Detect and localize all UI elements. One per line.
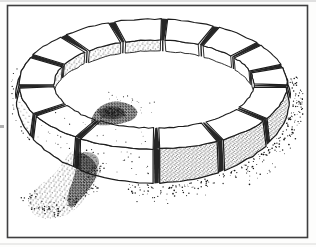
stipple-dot — [54, 202, 55, 203]
stipple-dot — [284, 153, 285, 154]
stipple-dot — [94, 166, 95, 167]
stipple-dot — [201, 186, 202, 187]
stipple-dot — [187, 185, 188, 186]
stipple-dot — [141, 143, 142, 144]
stipple-dot — [167, 203, 168, 204]
stipple-dot — [86, 161, 87, 162]
stipple-dot — [253, 168, 255, 170]
stipple-dot — [298, 95, 299, 96]
stipple-dot — [144, 191, 145, 192]
stipple-dot — [183, 192, 185, 194]
stipple-dot — [107, 110, 108, 111]
stipple-dot — [57, 215, 58, 216]
stipple-dot — [230, 175, 231, 176]
stipple-dot — [247, 171, 248, 172]
stipple-dot — [119, 108, 120, 109]
stipple-dot — [105, 110, 106, 111]
stipple-dot — [139, 157, 140, 158]
stipple-dot — [267, 147, 268, 148]
stipple-dot — [291, 79, 292, 80]
stipple-dot — [121, 110, 122, 111]
stipple-dot — [291, 112, 292, 113]
stipple-dot — [300, 106, 301, 107]
stipple-dot — [293, 101, 294, 102]
stipple-dot — [117, 172, 118, 173]
stipple-dot — [63, 207, 64, 208]
stipple-dot — [297, 121, 298, 122]
stipple-dot — [294, 129, 295, 130]
stipple-dot — [295, 106, 297, 108]
stipple-dot — [257, 178, 258, 179]
stipple-dot — [207, 186, 208, 187]
stipple-dot — [186, 195, 187, 196]
stipple-dot — [302, 93, 303, 94]
block-joint-inner-line — [250, 72, 251, 85]
stipple-dot — [46, 141, 47, 142]
stipple-dot — [124, 159, 125, 160]
stipple-dot — [88, 189, 89, 190]
stipple-dot — [145, 141, 146, 142]
stipple-dot — [259, 156, 260, 157]
stipple-dot — [24, 197, 25, 198]
stipple-dot — [77, 156, 78, 157]
stipple-dot — [107, 112, 108, 113]
stipple-dot — [103, 153, 104, 154]
stipple-dot — [197, 193, 198, 194]
stipple-dot — [224, 175, 225, 176]
stipple-dot — [266, 155, 267, 156]
stipple-dot — [109, 107, 110, 108]
stipple-dot — [276, 147, 277, 148]
stipple-dot — [295, 93, 296, 94]
stipple-dot — [207, 180, 208, 181]
stipple-dot — [259, 174, 261, 176]
stipple-dot — [276, 138, 277, 139]
stipple-dot — [154, 201, 155, 202]
stipple-dot — [55, 143, 56, 144]
stipple-dot — [192, 187, 193, 188]
stipple-dot — [116, 97, 117, 98]
stipple-dot — [23, 133, 24, 134]
stipple-dot — [249, 184, 251, 186]
stipple-dot — [103, 135, 104, 136]
stipple-dot — [124, 115, 125, 116]
stipple-dot — [22, 200, 23, 201]
stipple-dot — [292, 83, 293, 84]
stipple-dot — [86, 150, 88, 152]
stipple-dot — [282, 133, 284, 135]
stipple-dot — [60, 147, 61, 148]
stipple-dot — [131, 191, 133, 193]
stipple-dot — [154, 197, 155, 198]
stipple-dot — [67, 205, 68, 206]
stipple-dot — [127, 151, 128, 152]
stipple-dot — [103, 168, 104, 169]
stipple-dot — [298, 111, 299, 112]
stipple-dot — [121, 113, 122, 114]
stipple-dot — [113, 115, 114, 116]
stipple-dot — [76, 202, 77, 203]
stipple-dot — [100, 109, 101, 110]
stipple-dot — [206, 183, 207, 184]
stipple-dot — [123, 96, 124, 97]
stipple-dot — [75, 204, 77, 206]
stipple-dot — [134, 186, 136, 188]
stipple-dot — [64, 118, 65, 119]
stipple-dot — [291, 134, 292, 135]
stipple-dot — [175, 185, 176, 186]
stipple-dot — [272, 144, 273, 145]
stipple-dot — [172, 185, 173, 186]
stipple-dot — [299, 112, 300, 113]
stipple-dot — [213, 182, 214, 183]
stipple-dot — [258, 154, 259, 155]
stipple-dot — [222, 183, 223, 184]
stipple-dot — [118, 114, 119, 115]
stipple-dot — [141, 107, 142, 108]
stipple-dot — [13, 88, 14, 89]
stipple-dot — [29, 196, 30, 197]
stipple-dot — [132, 98, 133, 99]
stipple-dot — [137, 112, 138, 113]
stipple-dot — [55, 112, 56, 113]
stipple-dot — [298, 104, 299, 105]
stipple-dot — [35, 196, 36, 197]
stipple-dot — [287, 122, 288, 123]
stipple-dot — [125, 142, 126, 143]
